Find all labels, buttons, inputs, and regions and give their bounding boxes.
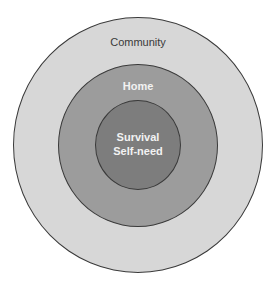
community-label: Community <box>88 36 188 48</box>
survival-label: Survival Self-need <box>95 130 181 158</box>
survival-label-line2: Self-need <box>95 144 181 158</box>
home-label: Home <box>88 80 188 92</box>
survival-label-line1: Survival <box>95 130 181 144</box>
